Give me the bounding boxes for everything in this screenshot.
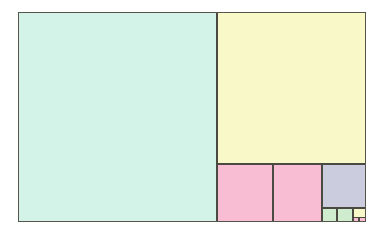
square-13-yellow xyxy=(217,12,366,164)
square-21-teal xyxy=(18,12,217,222)
figure-canvas xyxy=(0,0,382,235)
squared-rectangle-tiling xyxy=(18,12,366,222)
square-8-pink-right xyxy=(273,164,322,222)
square-5-lavender xyxy=(322,164,366,208)
square-3-green-left xyxy=(322,208,337,222)
square-3-green-right xyxy=(337,208,353,222)
square-1-pink-b xyxy=(359,217,366,222)
square-8-pink-left xyxy=(217,164,273,222)
